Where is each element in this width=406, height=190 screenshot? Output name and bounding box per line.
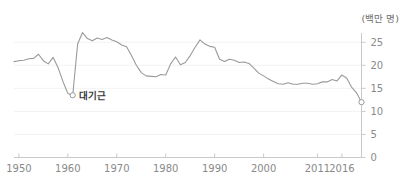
x-tick-label-1950: 1950 — [6, 163, 31, 174]
y-tick-label-0: 0 — [371, 152, 377, 163]
y-tick-label-20: 20 — [371, 60, 384, 71]
x-axis-ticks — [19, 154, 342, 158]
x-tick-label-2000: 2000 — [251, 163, 276, 174]
series-line-births — [14, 33, 362, 103]
marker-last-point — [359, 100, 364, 105]
birth-rate-line-chart: 대기근 19501960197019801990200020112016 051… — [0, 0, 406, 190]
y-tick-label-10: 10 — [371, 106, 384, 117]
annotation-label-great-famine: 대기근 — [79, 90, 106, 101]
x-tick-label-1960: 1960 — [55, 163, 80, 174]
x-tick-label-1990: 1990 — [202, 163, 227, 174]
marker-great-famine — [70, 93, 75, 98]
unit-label: (백만 명) — [362, 13, 399, 24]
annotations: 대기근 — [70, 90, 364, 105]
x-tick-label-1980: 1980 — [153, 163, 178, 174]
y-axis-tick-labels: 0510152025 — [371, 37, 384, 163]
y-tick-label-15: 15 — [371, 83, 384, 94]
x-tick-label-2016: 2016 — [329, 163, 354, 174]
chart-canvas: 대기근 19501960197019801990200020112016 051… — [0, 0, 406, 190]
x-tick-label-2011: 2011 — [305, 163, 330, 174]
y-tick-label-5: 5 — [371, 129, 377, 140]
x-axis-tick-labels: 19501960197019801990200020112016 — [6, 163, 354, 174]
x-tick-label-1970: 1970 — [104, 163, 129, 174]
y-tick-label-25: 25 — [371, 37, 384, 48]
